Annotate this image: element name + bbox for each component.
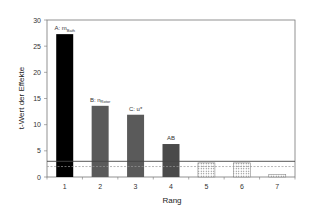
bar-annotation: B: nRotor [90,97,111,105]
y-tick-label: 15 [33,95,41,102]
bar-annotation: A: mBath [54,25,75,32]
bar-annotation: C: u* [129,106,143,112]
x-tick-label: 4 [169,183,173,190]
x-tick-label: 6 [240,183,244,190]
x-tick-label: 1 [63,183,67,190]
bar-chart: 051015202530 1234567 A: mBathB: nRotorC:… [0,0,310,214]
x-tick-label: 7 [275,183,279,190]
y-tick-label: 20 [33,69,41,76]
x-axis-label: Rang [162,196,181,205]
bar-4 [163,144,180,177]
x-tick-label: 3 [134,183,138,190]
bars [56,34,286,177]
x-tick-label: 2 [98,183,102,190]
bar-annotation: AB [167,135,175,141]
y-tick-label: 25 [33,43,41,50]
x-axis: 1234567 [47,177,295,190]
y-tick-label: 0 [37,174,41,181]
y-axis: 051015202530 [33,17,47,181]
y-tick-label: 5 [37,147,41,154]
bar-6 [233,163,250,177]
bar-3 [127,115,144,177]
bar-5 [198,163,215,177]
x-tick-label: 5 [204,183,208,190]
y-tick-label: 30 [33,17,41,24]
y-tick-label: 10 [33,121,41,128]
bar-1 [56,34,73,177]
bar-7 [269,174,286,177]
y-axis-label: t-Wert der Effekte [17,66,26,129]
